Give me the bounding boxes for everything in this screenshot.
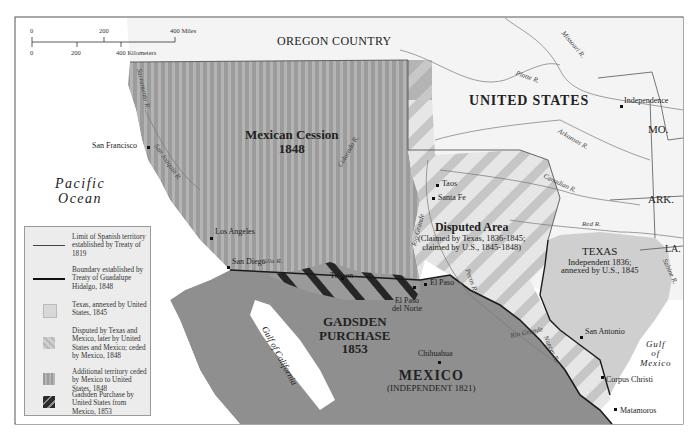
thin-line-icon (33, 245, 65, 246)
label-arkansas: ARK. (648, 194, 674, 206)
city-taos: Taos (442, 180, 457, 188)
city-san-francisco: San Francisco (92, 142, 137, 150)
legend-text: Boundary established by Treaty of Guadal… (72, 266, 148, 291)
city-tucson: Tucson (330, 272, 353, 280)
legend-item-limit-1819: Limit of Spanish territory established b… (25, 233, 150, 263)
label-pacific-ocean: Pacific Ocean (55, 177, 105, 206)
legend-item-boundary-1848: Boundary established by Treaty of Guadal… (25, 266, 150, 296)
legend-text: Limit of Spanish territory established b… (72, 233, 148, 258)
city-el-paso-del-norte: El Paso del Norte (392, 297, 422, 314)
gadsden-year: 1853 (319, 342, 391, 356)
vertical-stripe-swatch-icon (43, 373, 55, 385)
city-los-angeles: Los Angeles (215, 228, 255, 236)
label-gulf-of-mexico: Gulf of Mexico (640, 340, 671, 368)
city-matamoros: Matamoros (620, 407, 656, 415)
pacific-line1: Pacific (55, 177, 105, 192)
el-paso-del-norte-2: del Norte (392, 305, 422, 313)
scale-km-400: 400 Kilometers (116, 49, 156, 56)
city-san-diego: San Diego (232, 258, 266, 266)
scale-miles-200: 200 (99, 27, 109, 34)
light-swatch-icon (43, 304, 57, 318)
mexico-title: MEXICO (387, 369, 476, 384)
label-louisiana: LA. (665, 244, 681, 255)
city-el-paso: El Paso (430, 279, 454, 287)
mexican-cession-year: 1848 (245, 142, 339, 156)
legend-text: Texas, annexed by United States, 1845 (72, 301, 148, 318)
disputed-title: Disputed Area (418, 221, 525, 234)
scale-km-0: 0 (30, 49, 33, 56)
label-mexican-cession: Mexican Cession 1848 (245, 128, 339, 155)
label-gadsden-purchase: GADSDEN PURCHASE 1853 (319, 315, 391, 356)
mexico-sub: (INDEPENDENT 1821) (387, 384, 476, 393)
thick-line-icon (33, 278, 65, 280)
city-chihuahua: Chihuahua (418, 350, 453, 358)
city-corpus-christi: Corpus Christi (606, 376, 653, 384)
city-santa-fe: Santa Fe (438, 194, 466, 202)
label-oregon-country: OREGON COUNTRY (277, 35, 392, 48)
river-gila: Gila R. (262, 258, 282, 265)
dark-diagonal-swatch-icon (43, 396, 55, 408)
diagonal-swatch-icon (43, 337, 55, 349)
scale-miles-400: 400 Miles (170, 27, 196, 34)
label-united-states: UNITED STATES (469, 94, 589, 109)
gadsden-line2: PURCHASE (319, 329, 391, 343)
disputed-upper-strip (408, 60, 432, 100)
map-legend: Limit of Spanish territory established b… (24, 226, 151, 416)
disputed-sub2: claimed by U.S., 1845-1848) (418, 243, 525, 252)
label-texas: TEXAS Independent 1836; annexed by U.S.,… (561, 246, 638, 275)
city-independence: Independence (624, 97, 668, 105)
legend-text: Disputed by Texas and Mexico, later by U… (72, 327, 148, 360)
label-disputed-area: Disputed Area (Claimed by Texas, 1836-18… (418, 221, 525, 251)
river-red: Red R. (582, 221, 601, 228)
label-mexico: MEXICO (INDEPENDENT 1821) (387, 369, 476, 393)
legend-item-disputed: Disputed by Texas and Mexico, later by U… (25, 327, 150, 365)
legend-text: Gadsden Purchase by United States from M… (72, 391, 148, 416)
pacific-line2: Ocean (55, 192, 105, 207)
legend-text: Additional territory ceded by Mexico to … (72, 368, 148, 393)
gulf-mexico-3: Mexico (640, 359, 671, 368)
scale-miles-0: 0 (30, 27, 33, 34)
texas-title: TEXAS (561, 246, 638, 258)
mexican-cession-title: Mexican Cession (245, 128, 339, 142)
scale-km-200: 200 (71, 49, 81, 56)
legend-item-texas: Texas, annexed by United States, 1845 (25, 301, 150, 323)
city-san-antonio: San Antonio (585, 328, 625, 336)
legend-item-gadsden: Gadsden Purchase by United States from M… (25, 391, 150, 415)
label-missouri: MO. (648, 124, 668, 136)
texas-sub2: annexed by U.S., 1845 (561, 266, 638, 275)
gadsden-line1: GADSDEN (319, 315, 391, 329)
